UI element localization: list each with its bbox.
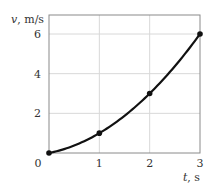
x-axis-label: t, s <box>183 171 200 184</box>
y-tick-label: 2 <box>34 107 41 120</box>
data-points <box>46 31 203 156</box>
x-tick-label: 3 <box>197 157 204 170</box>
data-point <box>197 31 203 37</box>
x-tick-labels: 0123 <box>35 157 204 170</box>
velocity-time-chart: 0123 246 v, m/s t, s <box>0 0 212 192</box>
y-tick-label: 6 <box>34 28 41 41</box>
y-tick-labels: 246 <box>34 28 41 120</box>
y-tick-label: 4 <box>34 68 41 81</box>
plot-frame <box>49 15 200 153</box>
x-tick-label: 1 <box>96 157 103 170</box>
series-line <box>49 34 200 153</box>
y-axis-label: v, m/s <box>11 13 44 26</box>
grid <box>49 15 200 153</box>
x-tick-label: 0 <box>35 157 42 170</box>
data-point <box>97 130 103 136</box>
x-tick-label: 2 <box>146 157 153 170</box>
data-point <box>46 150 52 156</box>
data-point <box>147 91 153 97</box>
